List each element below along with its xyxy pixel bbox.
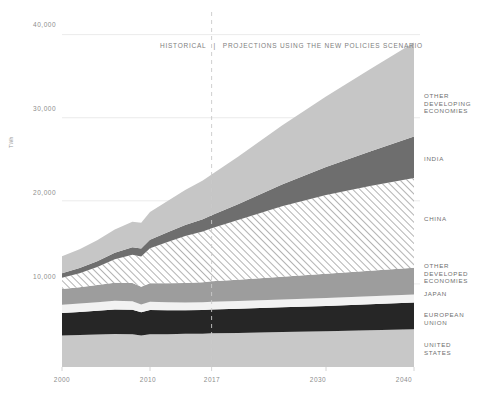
legend-label-china: CHINA [424, 215, 447, 223]
legend-label-united-states: UNITED STATES [424, 341, 451, 356]
legend-label-india: INDIA [424, 155, 444, 163]
banner-divider: | [206, 42, 222, 49]
stacked-area-chart [0, 0, 490, 412]
banner-historical: HISTORICAL [160, 42, 206, 49]
legend-label-other-developing-economies: OTHER DEVELOPING ECONOMIES [424, 92, 471, 115]
banner-projections: PROJECTIONS USING THE NEW POLICIES SCENA… [223, 42, 423, 49]
y-tick-label: 30,000 [12, 105, 56, 112]
x-tick-label: 2017 [192, 376, 232, 383]
area-bands [62, 43, 414, 367]
x-tick-label: 2000 [42, 376, 82, 383]
chart-root: TWh 40,00030,00020,00010,000 20002010201… [0, 0, 490, 412]
area-band-united-states [62, 329, 414, 367]
x-tick-label: 2010 [128, 376, 168, 383]
legend-label-japan: JAPAN [424, 290, 447, 298]
x-tick-label: 2040 [384, 376, 424, 383]
y-tick-label: 20,000 [12, 189, 56, 196]
x-tick-label: 2030 [298, 376, 338, 383]
y-tick-label: 40,000 [12, 21, 56, 28]
axis-tick-marks [62, 367, 414, 371]
legend-label-european-union: EUROPEAN UNION [424, 311, 464, 326]
chart-banner: HISTORICAL|PROJECTIONS USING THE NEW POL… [160, 42, 423, 49]
legend-label-other-developed-economies: OTHER DEVELOPED ECONOMIES [424, 262, 468, 285]
y-axis-label: TWh [8, 136, 14, 148]
y-tick-label: 10,000 [12, 273, 56, 280]
